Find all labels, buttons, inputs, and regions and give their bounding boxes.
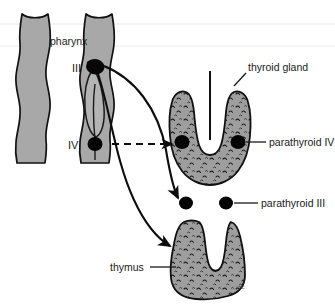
thyroid-gland-leader: [234, 73, 246, 86]
parathyroid-iii-label: parathyroid III: [261, 197, 325, 209]
parathyroid-iii-dot-left: [179, 197, 193, 210]
parathyroid-iv-dot-right: [231, 135, 246, 149]
parathyroid-iv-dot-left: [175, 135, 190, 149]
pouch-iii-label: III: [72, 62, 81, 74]
parathyroid-iv-label: parathyroid IV: [269, 136, 334, 148]
thymus-label: thymus: [110, 261, 144, 273]
thymus-shape: [171, 221, 245, 300]
pharynx-left: [16, 14, 51, 163]
artist-signature: vHc: [236, 284, 245, 290]
anatomy-diagram: pharynx III IV thyroid gland parathyroid…: [0, 0, 335, 306]
thyroid-gland-shape: [169, 71, 250, 185]
pharynx-label: pharynx: [50, 35, 88, 47]
thyroid-gland-label: thyroid gland: [248, 61, 308, 73]
pouch-iii-to-parathyroid-arrow: [104, 66, 178, 198]
pharyngeal-pouch-iv-marker: [88, 137, 103, 151]
parathyroid-iii-dot-right: [219, 197, 233, 210]
pouch-iv-label: IV: [68, 139, 79, 151]
